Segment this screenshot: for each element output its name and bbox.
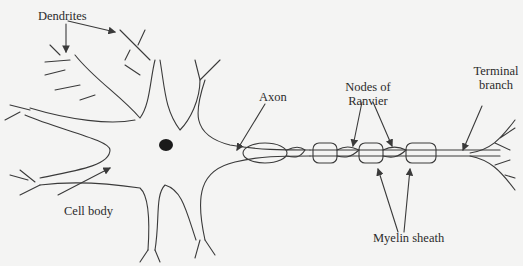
myelin-arrow-2 [404,169,410,232]
myelin-sheath-4 [406,143,436,163]
myelin-arrow-1 [378,169,398,232]
myelin-sheath-1 [243,143,287,163]
terminal-label-line1: Terminal [470,64,522,78]
nodes-label-line2: Ranvier [338,94,398,108]
myelin-sheath-label: Myelin sheath [373,231,444,245]
cell-body-label: Cell body [64,204,113,218]
terminal-branch-arrow [463,106,482,150]
nodes-of-ranvier-label: Nodes of Ranvier [338,80,398,108]
cell-body-outline [25,55,310,250]
terminal-branch-label: Terminal branch [470,64,522,92]
myelin-sheath-3 [359,143,383,163]
nodes-label-line1: Nodes of [338,80,398,94]
axon-label: Axon [259,90,287,104]
nodes-arrow-2 [373,102,392,146]
nodes-arrow-1 [353,102,362,146]
cell-body-arrow [58,168,110,195]
dendrites-label: Dendrites [38,9,87,23]
myelin-sheath-2 [313,143,337,163]
terminal-label-line2: branch [470,78,522,92]
neuron-diagram: Dendrites Axon Nodes of Ranvier Terminal… [0,0,523,266]
nucleus [159,139,173,151]
neuron-illustration [0,0,523,266]
